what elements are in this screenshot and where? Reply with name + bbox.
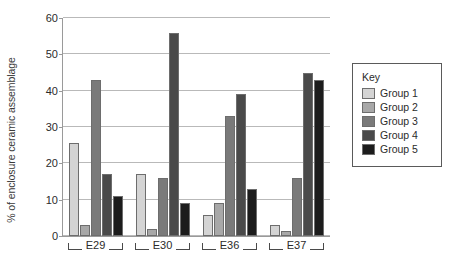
bracket-left-icon bbox=[269, 243, 283, 250]
legend-label: Group 4 bbox=[380, 129, 418, 141]
y-axis-title: % of enclosure ceramic assemblage bbox=[0, 0, 22, 280]
legend-label: Group 2 bbox=[380, 101, 418, 113]
y-tick-label: 40 bbox=[46, 85, 58, 97]
bar-groups bbox=[63, 18, 330, 236]
legend-item: Group 3 bbox=[362, 115, 433, 127]
bar bbox=[303, 73, 313, 237]
legend-items: Group 1Group 2Group 3Group 4Group 5 bbox=[362, 87, 433, 155]
bar bbox=[314, 80, 324, 236]
bar bbox=[236, 94, 246, 236]
legend: Key Group 1Group 2Group 3Group 4Group 5 bbox=[352, 63, 442, 167]
bar bbox=[113, 196, 123, 236]
bracket-right-icon bbox=[176, 243, 190, 250]
x-axis-group-label: E36 bbox=[220, 240, 240, 251]
x-axis-group: E30 bbox=[129, 240, 196, 264]
bar-group bbox=[263, 18, 330, 236]
legend-item: Group 4 bbox=[362, 129, 433, 141]
x-axis-group: E36 bbox=[196, 240, 263, 264]
y-tick-label: 0 bbox=[52, 230, 58, 242]
x-axis-group-label: E30 bbox=[153, 240, 173, 251]
bar bbox=[91, 80, 101, 236]
bar bbox=[292, 178, 302, 236]
y-tick-label: 10 bbox=[46, 194, 58, 206]
bar bbox=[180, 203, 190, 236]
bracket-right-icon bbox=[109, 243, 123, 250]
x-axis-group-label: E29 bbox=[86, 240, 106, 251]
y-tick-label: 60 bbox=[46, 12, 58, 24]
legend-label: Group 1 bbox=[380, 87, 418, 99]
x-axis-group-label: E37 bbox=[287, 240, 307, 251]
legend-swatch bbox=[362, 116, 375, 127]
bar bbox=[69, 143, 79, 236]
bar-group bbox=[63, 18, 130, 236]
y-tick-label: 30 bbox=[46, 121, 58, 133]
bar-group-inner bbox=[270, 18, 324, 236]
y-tick-label: 50 bbox=[46, 48, 58, 60]
bracket-right-icon bbox=[243, 243, 257, 250]
bar-group-inner bbox=[203, 18, 257, 236]
legend-label: Group 3 bbox=[380, 115, 418, 127]
legend-item: Group 5 bbox=[362, 143, 433, 155]
bracket-left-icon bbox=[135, 243, 149, 250]
x-axis-group: E29 bbox=[62, 240, 129, 264]
bar-group-inner bbox=[69, 18, 123, 236]
bar bbox=[270, 225, 280, 236]
bar-group-inner bbox=[136, 18, 190, 236]
bar bbox=[147, 229, 157, 236]
bar bbox=[80, 225, 90, 236]
bar bbox=[102, 174, 112, 236]
bracket-left-icon bbox=[68, 243, 82, 250]
plot-area: 0102030405060 bbox=[62, 18, 330, 237]
legend-label: Group 5 bbox=[380, 143, 418, 155]
bracket-right-icon bbox=[310, 243, 324, 250]
bar-group bbox=[130, 18, 197, 236]
legend-item: Group 1 bbox=[362, 87, 433, 99]
bar bbox=[214, 203, 224, 236]
bar-group bbox=[197, 18, 264, 236]
legend-swatch bbox=[362, 144, 375, 155]
bar bbox=[136, 174, 146, 236]
bar bbox=[225, 116, 235, 236]
legend-swatch bbox=[362, 88, 375, 99]
bar bbox=[247, 189, 257, 236]
bar-chart-figure: % of enclosure ceramic assemblage 010203… bbox=[0, 0, 454, 280]
bar bbox=[203, 215, 213, 236]
x-axis-labels: E29E30E36E37 bbox=[62, 240, 330, 264]
bar bbox=[169, 33, 179, 236]
legend-title: Key bbox=[362, 71, 433, 83]
y-tick-label: 20 bbox=[46, 157, 58, 169]
y-tick-mark bbox=[59, 236, 63, 237]
legend-swatch bbox=[362, 130, 375, 141]
legend-swatch bbox=[362, 102, 375, 113]
bar bbox=[281, 231, 291, 236]
bracket-left-icon bbox=[202, 243, 216, 250]
x-axis-group: E37 bbox=[263, 240, 330, 264]
bar bbox=[158, 178, 168, 236]
legend-item: Group 2 bbox=[362, 101, 433, 113]
